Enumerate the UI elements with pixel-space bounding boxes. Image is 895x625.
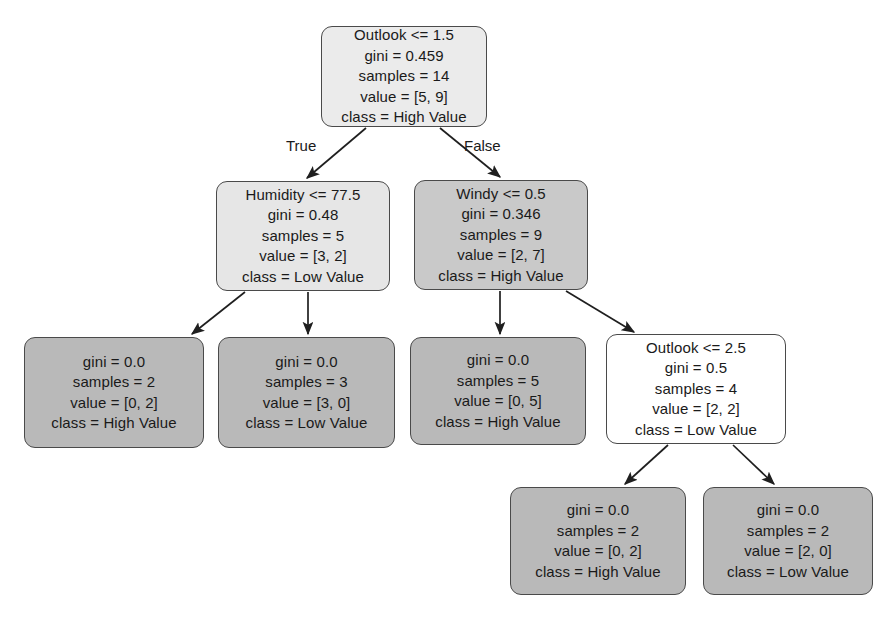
tree-edge-outlook2-to-leaf-d xyxy=(625,445,668,484)
tree-node-root[interactable]: Outlook <= 1.5gini = 0.459samples = 14va… xyxy=(321,26,487,127)
node-text-line: value = [5, 9] xyxy=(360,87,448,108)
node-text-line: class = Low Value xyxy=(635,420,757,441)
node-text-line: class = Low Value xyxy=(246,413,368,434)
node-text-line: class = High Value xyxy=(341,107,466,128)
tree-node-leaf-e[interactable]: gini = 0.0samples = 2value = [2, 0]class… xyxy=(703,487,873,595)
node-text-line: samples = 3 xyxy=(265,372,347,393)
node-text-line: gini = 0.0 xyxy=(567,500,629,521)
node-text-line: class = Low Value xyxy=(242,267,364,288)
node-text-line: value = [3, 2] xyxy=(259,246,347,267)
tree-node-outlook2[interactable]: Outlook <= 2.5gini = 0.5samples = 4value… xyxy=(606,334,786,444)
tree-edge-outlook2-to-leaf-e xyxy=(733,445,774,484)
tree-edge-windy-to-outlook2 xyxy=(566,291,634,332)
node-text-line: gini = 0.459 xyxy=(364,46,443,67)
node-text-line: Windy <= 0.5 xyxy=(456,184,546,205)
node-text-line: gini = 0.48 xyxy=(268,205,339,226)
node-text-line: gini = 0.0 xyxy=(467,350,529,371)
node-text-line: samples = 14 xyxy=(359,66,450,87)
tree-node-leaf-b[interactable]: gini = 0.0samples = 3value = [3, 0]class… xyxy=(218,337,395,448)
node-text-line: samples = 9 xyxy=(460,225,542,246)
node-text-line: Humidity <= 77.5 xyxy=(246,185,361,206)
node-text-line: samples = 2 xyxy=(747,521,829,542)
tree-node-humidity[interactable]: Humidity <= 77.5gini = 0.48samples = 5va… xyxy=(216,181,390,291)
decision-tree-canvas: Outlook <= 1.5gini = 0.459samples = 14va… xyxy=(0,0,895,625)
node-text-line: class = High Value xyxy=(435,412,560,433)
node-text-line: class = High Value xyxy=(51,413,176,434)
node-text-line: gini = 0.0 xyxy=(757,500,819,521)
node-text-line: gini = 0.0 xyxy=(275,352,337,373)
node-text-line: gini = 0.0 xyxy=(83,352,145,373)
node-text-line: value = [0, 5] xyxy=(454,391,542,412)
node-text-line: samples = 4 xyxy=(655,379,737,400)
node-text-line: class = High Value xyxy=(535,562,660,583)
node-text-line: gini = 0.346 xyxy=(461,204,540,225)
node-text-line: value = [2, 7] xyxy=(457,245,545,266)
node-text-line: Outlook <= 1.5 xyxy=(354,25,454,46)
tree-node-leaf-c[interactable]: gini = 0.0samples = 5value = [0, 5]class… xyxy=(410,337,586,445)
node-text-line: class = High Value xyxy=(438,266,563,287)
edge-label-false: False xyxy=(464,137,501,154)
node-text-line: samples = 2 xyxy=(73,372,155,393)
tree-node-leaf-d[interactable]: gini = 0.0samples = 2value = [0, 2]class… xyxy=(510,487,686,595)
tree-edge-humidity-to-leaf-a xyxy=(192,292,245,334)
node-text-line: value = [2, 0] xyxy=(744,541,832,562)
tree-node-windy[interactable]: Windy <= 0.5gini = 0.346samples = 9value… xyxy=(414,180,588,290)
node-text-line: value = [0, 2] xyxy=(554,541,642,562)
node-text-line: samples = 2 xyxy=(557,521,639,542)
node-text-line: gini = 0.5 xyxy=(665,358,727,379)
node-text-line: class = Low Value xyxy=(727,562,849,583)
node-text-line: samples = 5 xyxy=(457,371,539,392)
node-text-line: samples = 5 xyxy=(262,226,344,247)
node-text-line: value = [3, 0] xyxy=(263,393,351,414)
tree-node-leaf-a[interactable]: gini = 0.0samples = 2value = [0, 2]class… xyxy=(24,337,204,448)
edge-label-true: True xyxy=(286,137,316,154)
node-text-line: Outlook <= 2.5 xyxy=(646,338,746,359)
node-text-line: value = [2, 2] xyxy=(652,399,740,420)
node-text-line: value = [0, 2] xyxy=(70,393,158,414)
